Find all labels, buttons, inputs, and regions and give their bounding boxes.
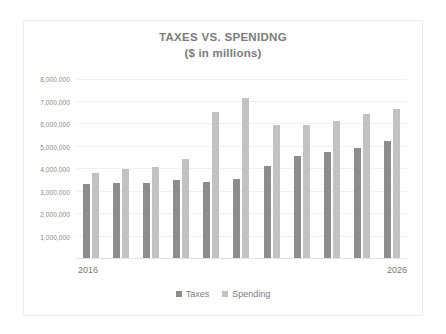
bar-spending-2017[interactable] bbox=[122, 169, 129, 259]
y-axis-tick-label: 8,000,000 bbox=[40, 76, 70, 83]
y-axis-tick-label: 5,000,000 bbox=[40, 143, 70, 150]
x-axis-labels: 2016 2026 bbox=[76, 265, 407, 281]
bar-group bbox=[287, 75, 317, 259]
bar-spending-2021[interactable] bbox=[242, 98, 249, 259]
bar-taxes-2023[interactable] bbox=[294, 156, 301, 259]
bar-spending-2016[interactable] bbox=[92, 173, 99, 259]
bar-group bbox=[257, 75, 287, 259]
bar-taxes-2016[interactable] bbox=[83, 184, 90, 259]
bar-spending-2019[interactable] bbox=[182, 159, 189, 259]
bar-taxes-2026[interactable] bbox=[384, 141, 391, 259]
bar-group bbox=[226, 75, 256, 259]
bar-spending-2026[interactable] bbox=[393, 109, 400, 259]
bar-group bbox=[166, 75, 196, 259]
bar-group bbox=[106, 75, 136, 259]
bar-spending-2024[interactable] bbox=[333, 121, 340, 259]
legend-label-spending: Spending bbox=[232, 289, 270, 299]
bar-spending-2022[interactable] bbox=[273, 125, 280, 259]
bar-taxes-2022[interactable] bbox=[264, 166, 271, 259]
bar-spending-2020[interactable] bbox=[212, 112, 219, 259]
legend-swatch-icon-spending bbox=[222, 291, 228, 297]
x-tick-first: 2016 bbox=[78, 265, 98, 275]
x-axis-line bbox=[76, 258, 407, 259]
chart-legend: Taxes Spending bbox=[24, 289, 422, 299]
bar-taxes-2025[interactable] bbox=[354, 148, 361, 259]
y-axis-tick-label: 7,000,000 bbox=[40, 98, 70, 105]
y-axis-tick-label: 4,000,000 bbox=[40, 166, 70, 173]
legend-item-taxes[interactable]: Taxes bbox=[176, 289, 210, 299]
y-axis-tick-label: 1,000,000 bbox=[40, 233, 70, 240]
bar-group bbox=[377, 75, 407, 259]
legend-item-spending[interactable]: Spending bbox=[222, 289, 270, 299]
x-tick-last: 2026 bbox=[387, 265, 407, 275]
chart-subtitle: ($ in millions) bbox=[24, 45, 422, 61]
bar-spending-2018[interactable] bbox=[152, 167, 159, 259]
bar-group bbox=[136, 75, 166, 259]
chart-card: TAXES VS. SPENIDNG ($ in millions) 1,000… bbox=[23, 20, 423, 316]
bar-taxes-2024[interactable] bbox=[324, 152, 331, 259]
bar-group bbox=[317, 75, 347, 259]
chart-title-block: TAXES VS. SPENIDNG ($ in millions) bbox=[24, 29, 422, 61]
bar-spending-2023[interactable] bbox=[303, 125, 310, 259]
plot-area bbox=[76, 75, 407, 259]
bar-group bbox=[347, 75, 377, 259]
bar-taxes-2021[interactable] bbox=[233, 179, 240, 259]
y-axis-labels: 1,000,0002,000,0003,000,0004,000,0005,00… bbox=[24, 75, 74, 259]
bar-taxes-2019[interactable] bbox=[173, 180, 180, 259]
bar-group bbox=[76, 75, 106, 259]
bars-layer bbox=[76, 75, 407, 259]
bar-taxes-2020[interactable] bbox=[203, 182, 210, 259]
bar-taxes-2017[interactable] bbox=[113, 183, 120, 259]
bar-taxes-2018[interactable] bbox=[143, 183, 150, 259]
y-axis-tick-label: 2,000,000 bbox=[40, 211, 70, 218]
bar-spending-2025[interactable] bbox=[363, 114, 370, 259]
y-axis-tick-label: 3,000,000 bbox=[40, 188, 70, 195]
bar-group bbox=[196, 75, 226, 259]
legend-label-taxes: Taxes bbox=[186, 289, 210, 299]
y-axis-tick-label: 6,000,000 bbox=[40, 121, 70, 128]
legend-swatch-icon-taxes bbox=[176, 291, 182, 297]
chart-title: TAXES VS. SPENIDNG bbox=[24, 29, 422, 45]
